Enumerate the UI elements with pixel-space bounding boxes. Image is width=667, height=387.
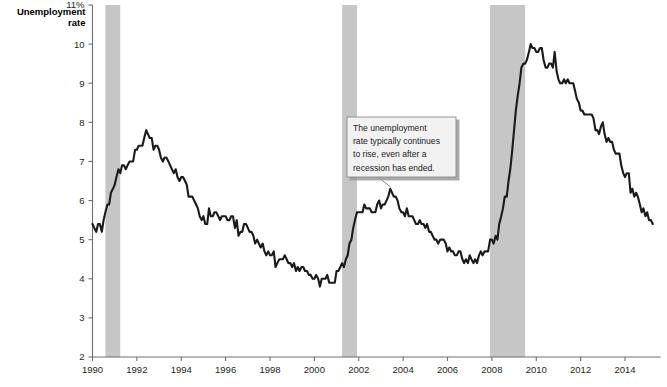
y-tick-label: 4 — [79, 273, 84, 284]
chart-canvas: 234567891011% 19901992199419961998200020… — [0, 0, 667, 387]
recession-bands — [105, 5, 525, 357]
axes — [93, 5, 661, 357]
y-axis-ticks: 234567891011% — [66, 0, 92, 362]
x-tick-label: 1990 — [82, 364, 103, 375]
annotation-text-line: to rise, even after a — [353, 149, 427, 159]
x-tick-label: 1992 — [126, 364, 147, 375]
x-tick-label: 2012 — [570, 364, 591, 375]
x-tick-label: 2004 — [393, 364, 414, 375]
y-tick-label: 2 — [79, 351, 84, 362]
annotation-callout: The unemploymentrate typically continues… — [347, 117, 456, 187]
x-tick-label: 2002 — [348, 364, 369, 375]
x-tick-label: 2000 — [304, 364, 325, 375]
y-tick-label: 10 — [74, 39, 85, 50]
unemployment-rate-chart-figure: 234567891011% 19901992199419961998200020… — [0, 0, 667, 387]
y-tick-label: 5 — [79, 234, 84, 245]
annotation-text-line: recession has ended. — [353, 163, 435, 173]
y-axis-title: Unemploymentrate — [17, 6, 86, 28]
x-tick-label: 1998 — [259, 364, 280, 375]
x-tick-label: 1994 — [171, 364, 192, 375]
annotation-text-line: rate typically continues — [353, 136, 440, 146]
x-tick-label: 1996 — [215, 364, 236, 375]
y-axis-title-line2: rate — [68, 17, 85, 28]
y-tick-label: 7 — [79, 156, 84, 167]
x-tick-label: 2008 — [481, 364, 502, 375]
x-tick-label: 2010 — [526, 364, 547, 375]
annotation-leader-line — [378, 177, 390, 187]
recession-band — [342, 5, 357, 357]
y-axis-title-line1: Unemployment — [17, 6, 86, 17]
x-axis-ticks: 1990199219941996199820002002200420062008… — [82, 357, 636, 375]
recession-band — [105, 5, 120, 357]
y-tick-label: 9 — [79, 78, 84, 89]
y-tick-label: 6 — [79, 195, 84, 206]
x-tick-label: 2014 — [614, 364, 635, 375]
x-tick-label: 2006 — [437, 364, 458, 375]
annotation-text-line: The unemployment — [353, 123, 427, 133]
y-tick-label: 8 — [79, 117, 84, 128]
y-tick-label: 3 — [79, 312, 84, 323]
